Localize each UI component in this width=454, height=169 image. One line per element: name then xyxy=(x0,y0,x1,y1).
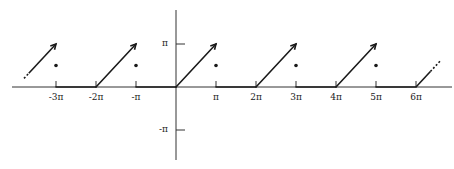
x-tick-label: π xyxy=(213,92,219,102)
x-tick-label: 5π xyxy=(370,92,382,102)
x-tick-label: -π xyxy=(132,92,141,102)
x-tick-label: 2π xyxy=(250,92,262,102)
x-tick-label: 3π xyxy=(290,92,302,102)
midpoint-dot xyxy=(54,64,58,68)
x-tick-label: 6π xyxy=(410,92,422,102)
curve-segment xyxy=(256,44,296,87)
x-tick-label: 4π xyxy=(330,92,342,102)
midpoint-dots xyxy=(54,64,378,68)
curve-segment-dashed xyxy=(24,73,29,78)
midpoint-dot xyxy=(374,64,378,68)
curve-segment xyxy=(96,44,136,87)
curve-segment xyxy=(29,44,56,73)
midpoint-dot xyxy=(214,64,218,68)
x-tick-label: -3π xyxy=(49,92,64,102)
midpoint-dot xyxy=(134,64,138,68)
midpoint-dot xyxy=(294,64,298,68)
function-plot xyxy=(0,0,454,169)
axes xyxy=(12,10,452,160)
y-tick-label: -π xyxy=(159,124,168,134)
x-tick-label: -2π xyxy=(89,92,104,102)
curve-segment xyxy=(416,72,430,87)
curve-segment-dashed xyxy=(430,61,440,71)
y-tick-label: π xyxy=(162,38,168,48)
curve-segment xyxy=(176,44,216,87)
curve-segment xyxy=(336,44,376,87)
